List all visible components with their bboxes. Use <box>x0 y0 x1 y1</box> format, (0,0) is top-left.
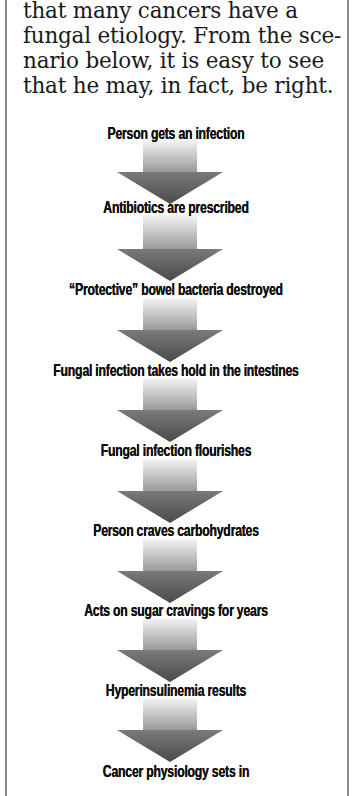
flow-step: Acts on sugar cravings for years <box>49 601 302 621</box>
flow-step: Person gets an infection <box>49 124 302 144</box>
flow-step: Fungal infection flourishes <box>49 441 302 461</box>
down-arrow-icon <box>117 298 223 362</box>
down-arrow-icon <box>117 378 223 442</box>
down-arrow-icon <box>117 140 223 204</box>
down-arrow-icon <box>117 698 223 762</box>
down-arrow-icon <box>117 215 223 281</box>
down-arrow-icon <box>117 539 223 603</box>
flow-step: “Protective” bowel bacteria destroyed <box>49 280 302 300</box>
flow-step: Person craves carbohydrates <box>49 521 302 541</box>
flow-step: Hyperinsulinemia results <box>49 681 302 701</box>
down-arrow-icon <box>117 459 223 523</box>
flow-step: Fungal infection takes hold in the intes… <box>49 361 302 381</box>
down-arrow-icon <box>117 618 223 682</box>
flow-step: Antibiotics are prescribed <box>49 198 302 218</box>
flow-step: Cancer physiology sets in <box>49 762 302 782</box>
